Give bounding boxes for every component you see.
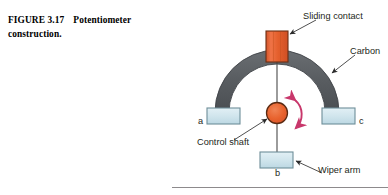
bidirectional-rotation-arrow <box>295 100 302 128</box>
figure-caption: FIGURE 3.17Potentiometer construction. <box>8 14 173 41</box>
label-terminal-a: a <box>198 117 203 126</box>
bottom-divider <box>172 187 388 188</box>
terminal-c <box>322 108 355 124</box>
terminal-b <box>260 152 293 168</box>
label-terminal-b: b <box>275 169 280 178</box>
label-carbon: Carbon <box>350 47 380 56</box>
label-control-shaft: Control shaft <box>197 138 249 147</box>
figure-title-line2: construction. <box>8 29 62 39</box>
sliding-contact-block <box>266 31 288 62</box>
figure-number: FIGURE 3.17 <box>8 15 64 25</box>
label-terminal-c: c <box>359 117 364 126</box>
figure-title-line1: Potentiometer <box>73 15 131 25</box>
label-sliding-contact: Sliding contact <box>303 12 363 21</box>
control-shaft-hub <box>267 103 288 124</box>
leader-sliding-contact <box>290 20 316 34</box>
leader-carbon <box>332 55 355 73</box>
label-wiper-arm: Wiper arm <box>318 166 360 175</box>
figure-page: FIGURE 3.17Potentiometer construction. <box>0 0 388 195</box>
terminal-a <box>207 108 240 124</box>
